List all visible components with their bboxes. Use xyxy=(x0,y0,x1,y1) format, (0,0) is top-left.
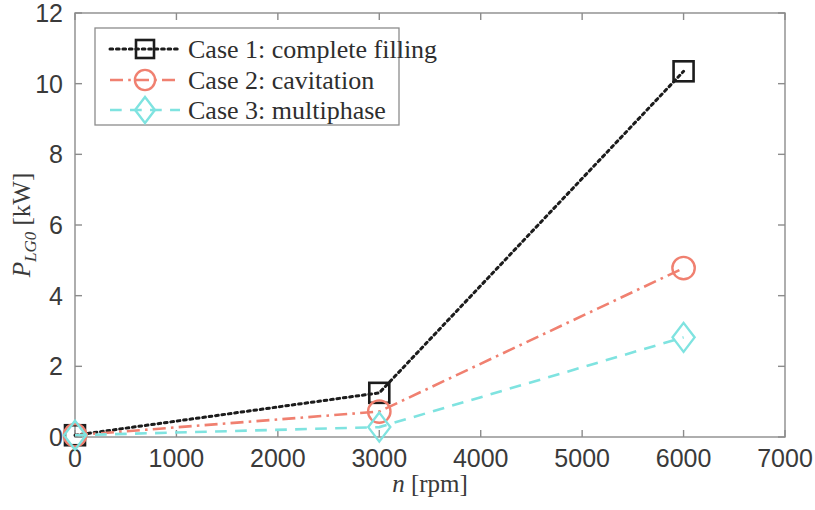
x-tick-label: 5000 xyxy=(554,444,610,472)
figure-container: 01000200030004000500060007000 024681012 … xyxy=(0,0,815,510)
x-tick-label: 2000 xyxy=(250,444,306,472)
y-axis-unit: [kW] xyxy=(8,173,35,232)
y-tick-label: 0 xyxy=(49,423,63,451)
x-tick-label: 4000 xyxy=(453,444,509,472)
y-tick-label: 8 xyxy=(49,140,63,168)
x-tick-label: 1000 xyxy=(149,444,205,472)
y-tick-label: 10 xyxy=(35,70,63,98)
x-tick-label: 6000 xyxy=(656,444,712,472)
y-tick-label: 2 xyxy=(49,352,63,380)
x-tick-label: 3000 xyxy=(351,444,407,472)
y-tick-label: 4 xyxy=(49,282,63,310)
legend-label: Case 1: complete filling xyxy=(188,35,437,64)
x-axis-tick-labels: 01000200030004000500060007000 xyxy=(68,444,813,472)
y-axis-title: PLG0 [kW] xyxy=(8,173,40,279)
y-tick-label: 6 xyxy=(49,211,63,239)
x-tick-label: 7000 xyxy=(757,444,813,472)
y-axis-subscript: LG0 xyxy=(21,231,40,263)
line-chart: 01000200030004000500060007000 024681012 … xyxy=(0,0,815,510)
y-tick-label: 12 xyxy=(35,0,63,27)
x-axis-unit: [rpm] xyxy=(405,470,468,497)
legend: Case 1: complete fillingCase 2: cavitati… xyxy=(95,28,437,125)
y-axis-symbol: P xyxy=(8,262,35,278)
y-axis-tick-labels: 024681012 xyxy=(35,0,63,451)
legend-label: Case 2: cavitation xyxy=(188,66,374,95)
legend-label: Case 3: multiphase xyxy=(188,96,386,125)
x-axis-title: n [rpm] xyxy=(392,470,468,497)
y-axis-title-group: PLG0 [kW] xyxy=(8,173,40,279)
x-axis-symbol: n xyxy=(392,470,405,497)
